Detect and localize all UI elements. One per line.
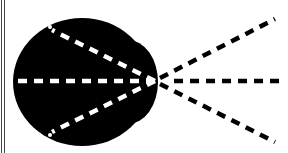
outer-rays: [160, 19, 285, 142]
ray-diagram: [0, 0, 288, 153]
outer-ray-lower: [160, 84, 275, 142]
outer-ray-upper: [160, 19, 275, 78]
diagram-frame: [0, 0, 288, 153]
